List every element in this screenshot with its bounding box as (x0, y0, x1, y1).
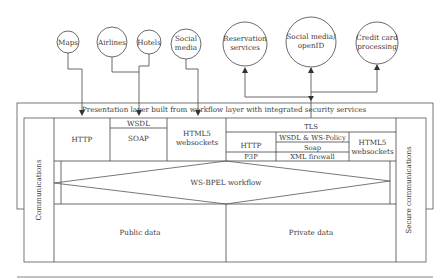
presentation-layer-title: Presentation layer built from workflow l… (82, 105, 367, 114)
wsdl-ws-policy-label: WSDL & WS-Policy (279, 134, 346, 142)
service-social-media: Social media (171, 29, 201, 59)
service-airlines: Airlines (97, 27, 127, 57)
secure-communications-label: Secure communications (404, 146, 413, 234)
communications-label: Communications (34, 159, 43, 220)
service-social-media-label-2: media (175, 43, 198, 52)
service-maps-label: Maps (58, 38, 78, 47)
service-airlines-label: Airlines (97, 38, 126, 47)
service-reservation-label-1: Reservation (223, 34, 267, 43)
service-credit-card-label-1: Credit card (356, 33, 398, 42)
service-openid: Social media/ openID (286, 17, 336, 67)
tls-label: TLS (304, 123, 318, 131)
service-hotels-label: Hotels (137, 38, 161, 47)
ws-bpel-workflow-label: WS-BPEL workflow (191, 178, 263, 187)
xml-firewall-label: XML firewall (290, 153, 335, 161)
service-openid-label-2: openID (298, 41, 325, 50)
service-reservation-label-2: services (230, 43, 260, 52)
right-html5-label-2: websockets (351, 147, 394, 156)
service-credit-card-label-2: processing (357, 42, 397, 51)
connector-credit-card (311, 67, 377, 92)
left-wsdl-label: WSDL (127, 119, 150, 128)
service-openid-label-1: Social media/ (286, 32, 336, 41)
right-soap-label: Soap (304, 144, 322, 152)
architecture-diagram: Maps Airlines Hotels Social media Reserv… (0, 0, 448, 279)
p3p-label: P3P (244, 153, 258, 161)
left-html5-label-1: HTML5 (183, 129, 211, 138)
right-http-label: HTTP (241, 141, 262, 150)
left-soap-label: SOAP (128, 134, 149, 143)
service-social-media-label-1: Social (175, 34, 198, 43)
right-html5-label-1: HTML5 (359, 138, 387, 147)
service-reservation: Reservation services (223, 22, 267, 66)
service-credit-card: Credit card processing (356, 22, 398, 64)
left-html5-label-2: websockets (176, 138, 219, 147)
service-hotels: Hotels (137, 30, 161, 54)
service-maps: Maps (57, 31, 79, 53)
private-data-label: Private data (289, 228, 334, 237)
connector-maps (68, 53, 82, 113)
connector-reservation (245, 70, 311, 97)
left-http-label: HTTP (72, 135, 93, 144)
public-data-label: Public data (119, 228, 161, 237)
